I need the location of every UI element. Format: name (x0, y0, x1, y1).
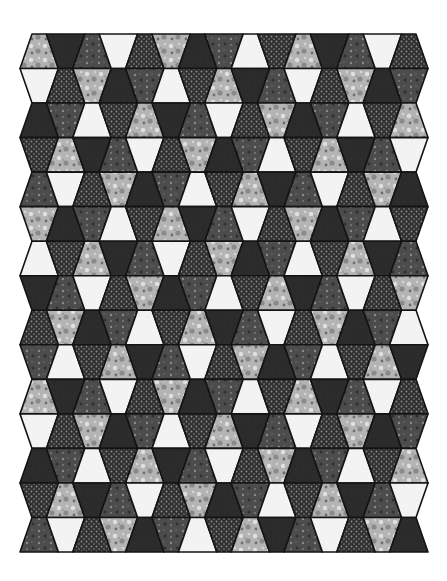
tumbler-quilt (0, 0, 447, 581)
quilt-blocks (20, 34, 428, 552)
